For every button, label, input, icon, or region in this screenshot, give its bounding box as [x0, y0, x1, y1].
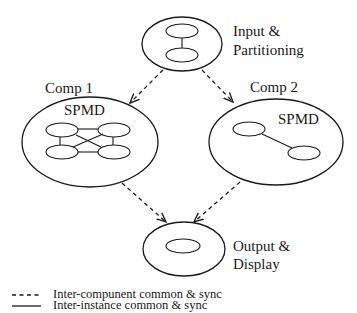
arrow-input-to-comp2	[202, 70, 233, 102]
comp2-instance-b	[288, 146, 320, 160]
legend-solid-label: Inter-instance common & sync	[53, 298, 208, 312]
comp1-instance-tl	[46, 123, 78, 137]
comp1-instance-bl	[46, 145, 78, 159]
output-display-node: Output & Display	[143, 222, 290, 276]
arrow-comp2-to-output	[194, 182, 240, 222]
legend: Inter-compunent common & sync Inter-inst…	[12, 287, 222, 312]
arrow-comp1-to-output	[122, 183, 166, 222]
comp2-outer-ellipse	[209, 99, 343, 185]
comp2-instance-link	[262, 134, 292, 148]
input-instance-top	[166, 24, 198, 38]
component-diagram: Input & Partitioning Comp 1 SPMD Comp 2 …	[0, 0, 357, 313]
comp2-node: Comp 2 SPMD	[209, 79, 343, 185]
comp1-instance-br	[98, 145, 130, 159]
output-outer-ellipse	[143, 222, 225, 276]
component-arrows	[122, 70, 240, 222]
output-label-line2: Display	[233, 256, 280, 272]
input-label-line2: Partitioning	[233, 42, 304, 58]
comp2-spmd-label: SPMD	[278, 111, 319, 127]
comp1-title: Comp 1	[45, 80, 93, 96]
comp1-node: Comp 1 SPMD	[22, 80, 158, 187]
input-instance-bottom	[166, 48, 198, 62]
comp1-spmd-label: SPMD	[64, 102, 105, 118]
comp1-instance-tr	[98, 123, 130, 137]
output-label-line1: Output &	[233, 238, 290, 254]
comp2-instance-a	[233, 122, 265, 136]
arrow-input-to-comp1	[130, 70, 163, 103]
comp2-title: Comp 2	[250, 79, 298, 95]
output-instance	[166, 239, 200, 253]
input-partitioning-node: Input & Partitioning	[142, 17, 304, 71]
input-label-line1: Input &	[233, 23, 280, 39]
